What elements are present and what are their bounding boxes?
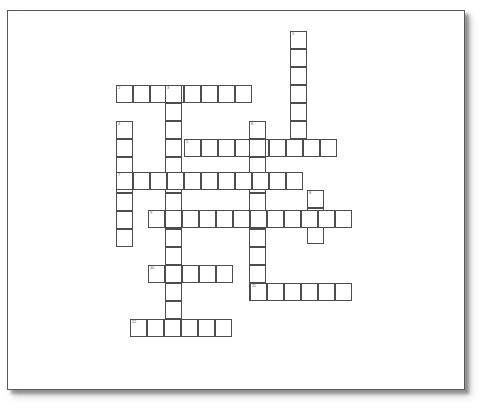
crossword-cell[interactable] [182,265,199,283]
crossword-cell[interactable] [116,229,133,247]
crossword-cell[interactable] [318,283,335,301]
crossword-clue-number: 2 [118,86,120,90]
crossword-cell[interactable] [290,103,307,121]
crossword-clue-number: 4 [118,122,120,126]
crossword-cell[interactable] [165,283,182,301]
crossword-clue-number: 1 [292,32,294,36]
crossword-cell[interactable]: 8 [307,190,324,208]
crossword-clue-number: 3 [167,86,169,90]
crossword-cell[interactable] [233,210,250,228]
crossword-cell[interactable]: 4 [116,121,133,139]
crossword-grid[interactable]: 123456789101112 [0,0,486,420]
crossword-cell[interactable] [116,193,133,211]
crossword-cell[interactable]: 5 [184,139,201,157]
crossword-cell[interactable] [249,265,266,283]
crossword-cell[interactable] [167,172,184,190]
crossword-cell[interactable] [301,283,318,301]
crossword-cell[interactable] [284,210,301,228]
crossword-cell[interactable] [286,139,303,157]
crossword-cell[interactable] [184,85,201,103]
crossword-cell[interactable]: 10 [148,265,165,283]
crossword-cell[interactable]: 6 [249,121,266,139]
crossword-cell[interactable] [320,139,337,157]
crossword-cell[interactable] [116,211,133,229]
crossword-cell[interactable] [216,265,233,283]
crossword-cell[interactable] [182,210,199,228]
crossword-cell[interactable]: 3 [165,85,182,103]
crossword-cell[interactable] [286,172,303,190]
crossword-cell[interactable] [250,210,267,228]
crossword-cell[interactable] [165,121,182,139]
crossword-cell[interactable] [198,319,215,337]
crossword-cell[interactable] [164,319,181,337]
crossword-cell[interactable] [269,139,286,157]
crossword-cell[interactable] [181,319,198,337]
crossword-cell[interactable] [290,121,307,139]
crossword-cell[interactable] [215,319,232,337]
crossword-cell[interactable]: 1 [290,31,307,49]
crossword-cell[interactable] [165,247,182,265]
crossword-clue-number: 9 [150,211,152,215]
crossword-cell[interactable] [249,247,266,265]
crossword-clue-number: 12 [132,320,136,324]
crossword-cell[interactable] [290,67,307,85]
crossword-cell[interactable] [218,85,235,103]
crossword-cell[interactable] [335,210,352,228]
crossword-clue-number: 7 [118,173,120,177]
crossword-cell[interactable] [165,301,182,319]
crossword-cell[interactable] [284,283,301,301]
crossword-cell[interactable] [201,139,218,157]
crossword-cell[interactable] [165,210,182,228]
crossword-cell[interactable] [235,172,252,190]
crossword-clue-number: 6 [251,122,253,126]
crossword-cell[interactable] [269,172,286,190]
crossword-cell[interactable] [267,210,284,228]
crossword-cell[interactable] [150,172,167,190]
crossword-cell[interactable] [249,229,266,247]
crossword-cell[interactable] [201,172,218,190]
crossword-cell[interactable] [218,139,235,157]
crossword-cell[interactable] [235,85,252,103]
crossword-cell[interactable] [201,85,218,103]
crossword-cell[interactable] [116,139,133,157]
crossword-cell[interactable] [307,226,324,244]
crossword-cell[interactable] [147,319,164,337]
crossword-cell[interactable] [335,283,352,301]
crossword-cell[interactable] [199,265,216,283]
crossword-clue-number: 8 [309,191,311,195]
crossword-cell[interactable] [199,210,216,228]
crossword-cell[interactable] [267,283,284,301]
crossword-cell[interactable] [290,49,307,67]
crossword-clue-number: 10 [150,266,154,270]
page-canvas: 123456789101112 [0,0,486,420]
crossword-cell[interactable] [249,139,266,157]
crossword-cell[interactable] [216,210,233,228]
crossword-cell[interactable] [133,85,150,103]
crossword-cell[interactable]: 7 [116,172,133,190]
crossword-cell[interactable] [184,172,201,190]
crossword-cell[interactable] [301,210,318,228]
crossword-cell[interactable] [165,265,182,283]
crossword-cell[interactable] [218,172,235,190]
crossword-clue-number: 11 [252,284,256,288]
crossword-cell[interactable] [133,172,150,190]
crossword-cell[interactable] [290,85,307,103]
crossword-cell[interactable] [303,139,320,157]
crossword-cell[interactable] [252,172,269,190]
crossword-cell[interactable] [249,193,266,211]
crossword-cell[interactable] [165,229,182,247]
crossword-cell[interactable] [165,193,182,211]
crossword-cell[interactable]: 2 [116,85,133,103]
crossword-cell[interactable] [165,103,182,121]
crossword-cell[interactable] [318,210,335,228]
crossword-cell[interactable]: 9 [148,210,165,228]
crossword-cell[interactable]: 12 [130,319,147,337]
crossword-clue-number: 5 [186,140,188,144]
crossword-cell[interactable] [165,139,182,157]
crossword-cell[interactable]: 11 [250,283,267,301]
